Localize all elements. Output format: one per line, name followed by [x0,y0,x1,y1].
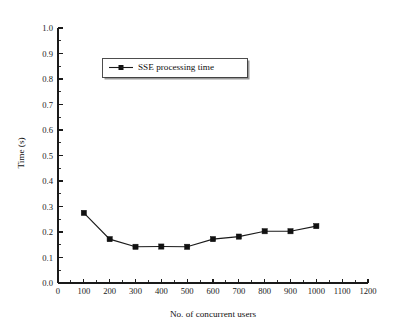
data-point-marker [314,224,319,229]
chart-series [81,210,319,249]
x-tick-label: 100 [77,286,90,296]
y-tick-label: 0.2 [42,227,53,237]
data-point-marker [262,229,267,234]
x-tick-label: 300 [129,286,142,296]
y-tick-label: 0.5 [42,151,53,161]
data-point-marker [159,244,164,249]
legend-label: SSE processing time [138,62,214,72]
x-tick-label: 1100 [334,286,351,296]
y-tick-label: 0.0 [42,278,53,288]
data-point-marker [288,229,293,234]
data-point-marker [236,234,241,239]
x-tick-label: 1000 [308,286,325,296]
data-point-marker [133,244,138,249]
x-tick-label: 700 [232,286,245,296]
x-tick-label: 900 [284,286,297,296]
x-tick-label: 600 [207,286,220,296]
series-line [84,213,316,247]
y-tick-label: 0.3 [42,202,53,212]
x-tick-label: 200 [103,286,116,296]
x-tick-label: 1200 [359,286,376,296]
y-tick-label: 0.6 [42,125,53,135]
data-point-marker [185,244,190,249]
y-tick-label: 0.7 [42,100,53,110]
data-point-marker [210,237,215,242]
y-tick-label: 0.1 [42,253,53,263]
line-chart: 0.00.10.20.30.40.50.60.70.80.91.00100200… [0,0,397,330]
y-tick-label: 0.9 [42,49,53,59]
x-tick-label: 400 [155,286,168,296]
chart-legend[interactable]: SSE processing time [102,58,250,80]
data-point-marker [81,210,86,215]
chart-figure: 0.00.10.20.30.40.50.60.70.80.91.00100200… [0,0,397,330]
y-axis-title: Time (s) [16,137,26,168]
y-tick-label: 0.8 [42,74,53,84]
x-tick-label: 800 [258,286,271,296]
x-tick-label: 500 [181,286,194,296]
data-point-marker [107,237,112,242]
y-tick-label: 0.4 [42,176,53,186]
x-axis-title: No. of concurrent users [170,309,257,319]
y-tick-label: 1.0 [42,23,53,33]
x-tick-label: 0 [56,286,60,296]
